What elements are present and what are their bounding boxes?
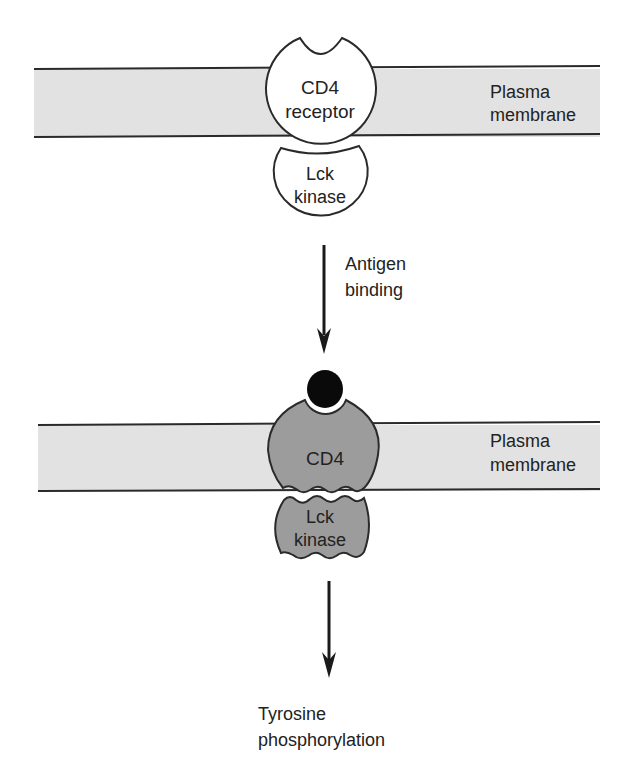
membrane-label-bottom-line2: membrane (490, 451, 576, 479)
antigen-ligand-icon (307, 370, 343, 408)
lck-kinase-active-label-line2: kinase (282, 526, 358, 554)
cd4-active-label: CD4 (290, 445, 360, 473)
membrane-label-top-line2: membrane (490, 101, 576, 129)
outcome-label-line2: phosphorylation (258, 726, 385, 754)
cd4-receptor-label-line2: receptor (272, 98, 368, 126)
antigen-binding-label-line2: binding (345, 276, 403, 304)
antigen-binding-arrow (317, 245, 331, 354)
antigen-binding-label-line1: Antigen (345, 250, 406, 278)
lck-kinase-label-line2: kinase (282, 183, 358, 211)
phosphorylation-arrow (322, 581, 336, 678)
outcome-label-line1: Tyrosine (258, 700, 326, 728)
